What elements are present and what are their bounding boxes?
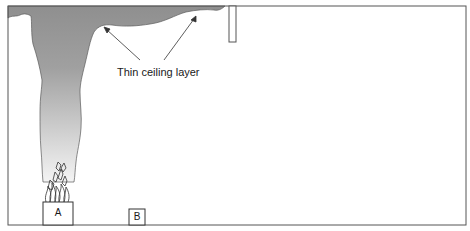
- object-a-label: A: [43, 207, 73, 218]
- object-b-label: B: [129, 211, 145, 222]
- fire-diagram: [0, 0, 470, 231]
- smoke-plume-and-ceiling-layer: [8, 6, 225, 182]
- annotation-label: Thin ceiling layer: [117, 66, 200, 78]
- ceiling-soffit: [229, 6, 236, 42]
